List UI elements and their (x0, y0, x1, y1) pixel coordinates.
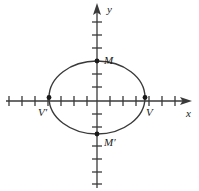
coordinate-plane-svg (0, 0, 199, 191)
point-v-prime (47, 95, 52, 100)
point-label-v-prime: V′ (38, 107, 47, 118)
point-m (95, 59, 100, 64)
y-axis (92, 3, 102, 188)
x-axis-label: x (186, 108, 191, 119)
point-label-m: M (104, 55, 113, 66)
point-label-m-prime: M′ (104, 137, 116, 148)
point-m-prime (95, 132, 100, 137)
y-axis-label: y (107, 4, 112, 15)
point-label-v: V (146, 107, 153, 118)
x-axis (6, 96, 192, 106)
point-v (143, 95, 148, 100)
ellipse-graph-figure: x y M M′ V V′ (0, 0, 199, 191)
